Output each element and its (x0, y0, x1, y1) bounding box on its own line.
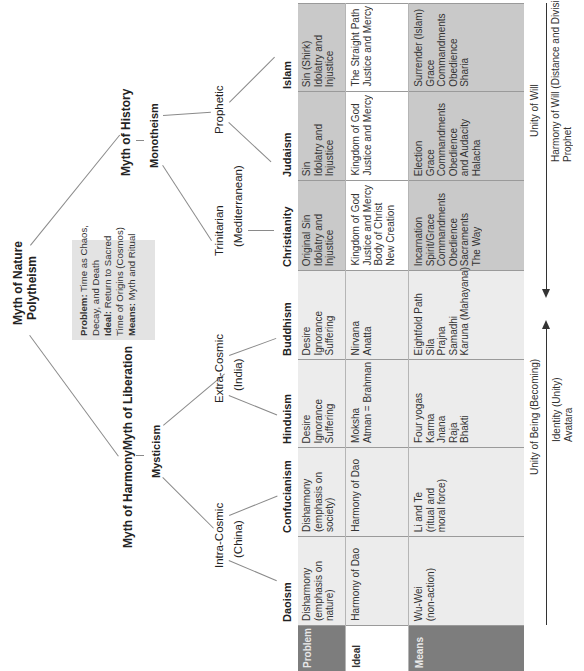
cell-line: Election (413, 140, 424, 176)
cell-line: Atman = Brahman (362, 362, 373, 443)
cell-text: Li and Te(ritual andmoral force) (413, 479, 448, 532)
cell-line: Obedience (448, 39, 459, 87)
note-ideal-text: Return to Sacred (102, 236, 113, 311)
cell-line: Idolatry and (313, 124, 324, 176)
row-label-ideal-text: Ideal (351, 645, 363, 668)
unity-of-being-label: Unity of Being (Becoming) (529, 365, 541, 475)
cell-line: Moksha (350, 408, 361, 443)
cell-line: Sila (425, 338, 436, 355)
grid-line (298, 536, 524, 537)
prophet-text: Prophet (562, 127, 573, 162)
polytheism-note-box: Problem: Time as Chaos, Decay, and Death… (72, 240, 155, 340)
harmony-of-will-label: Harmony of Will (Distance and Division) … (550, 20, 573, 162)
mediterranean-label: (Mediterranean) (232, 175, 245, 247)
cell-text: MokshaAtman = Brahman (350, 362, 373, 443)
connector-line (136, 455, 144, 456)
cell-christianity-problem: Original SinIdolatry andInjustice (298, 180, 345, 270)
cell-line: Li and Te (413, 492, 424, 532)
cell-line: Samadhi (448, 316, 459, 355)
cell-buddhism-means: Eightfold PathSilaPrajnaSamadhiKaruna (M… (408, 270, 524, 359)
prophetic-label: Prophetic (213, 88, 226, 134)
cell-line: Obedience (448, 128, 459, 176)
cell-buddhism-ideal: NirvanaAnatta (345, 270, 408, 359)
cell-line: Ignorance (313, 399, 324, 443)
connector-line (30, 135, 120, 246)
cell-line: Disharmony (301, 479, 312, 532)
cell-line: moral force) (436, 479, 447, 532)
arrow-line-east (546, 328, 547, 625)
connector-line (136, 140, 144, 141)
cell-line: nature) (324, 589, 335, 621)
cell-text: Surrender (Islam)GraceCommandmentsObedie… (413, 9, 471, 87)
cell-line: Grace (425, 60, 436, 87)
cell-line: and Audacity (459, 119, 470, 176)
cell-line: Kingdom of God (350, 104, 361, 176)
grid-line (298, 625, 524, 626)
cell-text: Kingdom of GodJustice and Mercy (350, 95, 373, 176)
cell-islam-problem: Sin (Shirk)Idolatry andInjustice (298, 3, 345, 91)
cell-islam-means: Surrender (Islam)GraceCommandmentsObedie… (408, 3, 524, 91)
myth-of-liberation-label: Myth of Liberation (122, 358, 136, 450)
cell-christianity-ideal: Kingdom of GodJustice and MercyBody of C… (345, 180, 408, 270)
polytheism-label: Polytheism (25, 255, 39, 319)
note-problem-text-2: Decay, and Death (90, 260, 101, 336)
grid-line (298, 180, 524, 181)
myth-of-harmony-label: Myth of Harmony (122, 460, 136, 548)
cell-text: SinIdolatry andInjustice (301, 124, 336, 176)
cell-line: Original Sin (301, 214, 312, 266)
cell-line: Justice and Mercy (362, 6, 373, 87)
cell-line: Sin (Shirk) (301, 40, 312, 87)
cell-line: Injustice (324, 229, 335, 266)
harmony-of-will-text: Harmony of Will (Distance and Division) (550, 0, 561, 162)
cell-text: IncarnationSpirit/GraceCommandmentsObedi… (413, 193, 482, 266)
cell-line: New Creation (385, 205, 396, 266)
extra-cosmic-label: Extra-Cosmic (213, 343, 226, 403)
cell-line: Prajna (436, 326, 447, 355)
cell-line: Injustice (324, 139, 335, 176)
cell-text: Disharmony(emphasis onnature) (301, 561, 336, 621)
cell-text: Disharmony(emphasis onsociety) (301, 472, 336, 532)
cell-line: Jnana (436, 416, 447, 443)
column-header-christianity: Christianity (281, 180, 294, 267)
cell-line: Karuna (Mahayana) (459, 267, 470, 355)
unity-of-will-label: Unity of Will (529, 95, 541, 137)
cell-buddhism-problem: DesireIgnoranceSuffering (298, 270, 345, 359)
cell-line: Nirvana (350, 321, 361, 355)
connector-line (163, 112, 211, 116)
cell-line: (emphasis on (313, 561, 324, 621)
cell-line: Surrender (Islam) (413, 9, 424, 87)
cell-christianity-means: IncarnationSpirit/GraceCommandmentsObedi… (408, 180, 524, 270)
cell-line: Bhakti (459, 415, 470, 443)
cell-line: Desire (301, 414, 312, 443)
cell-line: Wu-Wei (413, 586, 424, 621)
cell-text: Four yogasKarmaJnanaRajaBhakti (413, 393, 471, 443)
cell-line: The Way (471, 226, 482, 266)
cell-line: Suffering (324, 315, 335, 355)
india-label: (India) (232, 358, 245, 392)
note-ideal-label: Ideal: (102, 311, 113, 336)
grid-line (298, 3, 524, 4)
cell-line: Grace (425, 149, 436, 176)
row-label-means: Means (408, 625, 524, 671)
identity-text: Identity (Unity) (551, 378, 562, 442)
china-label: (China) (232, 522, 245, 558)
connector-line (229, 338, 276, 356)
row-label-means-text: Means (414, 637, 426, 668)
cell-line: Desire (301, 326, 312, 355)
cell-line: (emphasis on (313, 472, 324, 532)
cell-line: Incarnation (413, 217, 424, 266)
cell-line: Ignorance (313, 311, 324, 355)
cell-judaism-means: ElectionGraceCommandmentsObedienceand Au… (408, 91, 524, 180)
column-header-daoism: Daoism (281, 536, 294, 622)
cell-text: Original SinIdolatry andInjustice (301, 214, 336, 266)
cell-line: Commandments (436, 193, 447, 266)
cell-line: Disharmony (301, 568, 312, 621)
grid-line (345, 3, 346, 671)
cell-line: Obedience (448, 218, 459, 266)
cell-line: Injustice (324, 50, 335, 87)
column-header-buddhism: Buddhism (281, 270, 294, 356)
connector-line (229, 395, 278, 415)
connector-line (228, 122, 271, 162)
note-problem-text: Time as Chaos, (78, 225, 89, 294)
cell-daoism-ideal: Harmony of Dao (345, 536, 408, 625)
